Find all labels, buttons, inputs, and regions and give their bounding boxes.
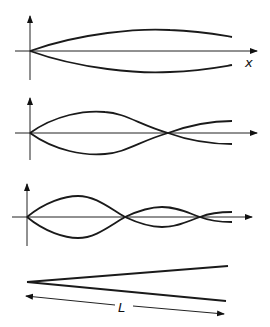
mode-shapes-diagram: x L xyxy=(0,0,270,327)
panel-mode-2 xyxy=(15,98,257,160)
taper-lower-line xyxy=(27,282,226,301)
length-label: L xyxy=(118,300,125,315)
length-arrow-right xyxy=(133,306,224,314)
envelope-upper xyxy=(30,30,232,51)
envelope-upper xyxy=(30,112,232,133)
panel-mode-3 xyxy=(12,184,252,246)
panel-mode-1: x xyxy=(15,16,257,80)
envelope-upper xyxy=(27,196,232,217)
envelope-lower xyxy=(30,133,232,154)
envelope-lower xyxy=(30,51,232,72)
taper-upper-line xyxy=(27,266,228,282)
length-arrow-left xyxy=(26,296,115,305)
panel-taper: L xyxy=(26,266,228,315)
envelope-lower xyxy=(27,217,232,238)
x-axis-label: x xyxy=(244,55,253,70)
